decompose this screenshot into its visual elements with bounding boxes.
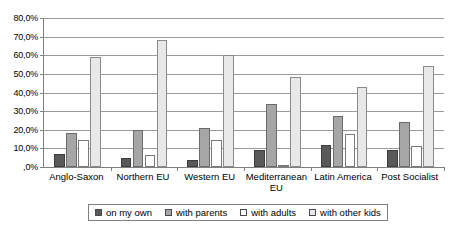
- bar-group: [111, 18, 178, 167]
- y-tickmark: [40, 167, 44, 168]
- legend-item: with other kids: [309, 208, 381, 218]
- bar: [199, 128, 210, 167]
- bar: [333, 116, 344, 167]
- x-tick-label: Anglo-Saxon: [43, 171, 110, 182]
- bar: [78, 140, 89, 167]
- bar: [121, 158, 132, 167]
- legend-swatch-icon: [95, 209, 102, 216]
- bar: [157, 40, 168, 167]
- legend-label: on my own: [106, 208, 152, 218]
- bar: [387, 150, 398, 167]
- bar-group: [244, 18, 311, 167]
- bar: [90, 57, 101, 167]
- y-tick-label: 50,0%: [13, 69, 38, 78]
- legend-item: with parents: [165, 208, 227, 218]
- bar: [54, 154, 65, 167]
- bar: [278, 165, 289, 167]
- bar: [266, 104, 277, 167]
- y-tick-label: ,0%: [23, 163, 38, 172]
- y-axis: ,0%10,0%20,0%30,0%40,0%50,0%60,0%70,0%80…: [0, 0, 41, 175]
- bar-group: [311, 18, 378, 167]
- legend-swatch-icon: [309, 209, 316, 216]
- bar: [321, 145, 332, 167]
- legend-label: with parents: [176, 208, 227, 218]
- legend-swatch-icon: [240, 209, 247, 216]
- bar: [399, 122, 410, 167]
- bar-chart: ,0%10,0%20,0%30,0%40,0%50,0%60,0%70,0%80…: [0, 0, 450, 232]
- legend-item: with adults: [240, 208, 296, 218]
- bar: [254, 150, 265, 167]
- bar: [345, 134, 356, 167]
- bar-group: [377, 18, 444, 167]
- bar: [211, 140, 222, 167]
- x-axis: Anglo-SaxonNorthern EUWestern EUMediterr…: [43, 171, 443, 201]
- y-tick-label: 30,0%: [13, 107, 38, 116]
- chart-legend: on my ownwith parentswith adultswith oth…: [88, 204, 388, 221]
- x-tickmark: [444, 167, 445, 171]
- legend-label: with other kids: [320, 208, 381, 218]
- x-tick-label: Northern EU: [110, 171, 177, 182]
- y-tick-label: 80,0%: [13, 14, 38, 23]
- bar: [423, 66, 434, 167]
- bar-group: [177, 18, 244, 167]
- y-tick-label: 60,0%: [13, 51, 38, 60]
- bar: [145, 155, 156, 167]
- x-tick-label: Post Socialist: [376, 171, 443, 182]
- legend-label: with adults: [251, 208, 296, 218]
- x-tick-label: Mediterranean EU: [243, 171, 310, 193]
- x-tick-label: Latin America: [310, 171, 377, 182]
- bar: [66, 133, 77, 167]
- y-tick-label: 40,0%: [13, 88, 38, 97]
- bar: [187, 160, 198, 167]
- bar-group: [44, 18, 111, 167]
- plot-area: [43, 18, 444, 168]
- legend-item: on my own: [95, 208, 152, 218]
- y-tick-label: 20,0%: [13, 125, 38, 134]
- y-tick-label: 70,0%: [13, 32, 38, 41]
- bar: [133, 130, 144, 167]
- legend-swatch-icon: [165, 209, 172, 216]
- plot-wrapper: ,0%10,0%20,0%30,0%40,0%50,0%60,0%70,0%80…: [0, 0, 450, 175]
- bar: [357, 87, 368, 167]
- y-tick-label: 10,0%: [13, 144, 38, 153]
- x-tick-label: Western EU: [176, 171, 243, 182]
- bar: [223, 55, 234, 167]
- bar: [411, 146, 422, 167]
- bar: [290, 77, 301, 167]
